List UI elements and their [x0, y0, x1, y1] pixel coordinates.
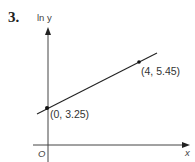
- graph: ln y x O (0, 3.25) (4, 5.45): [0, 0, 195, 162]
- point-second: [137, 60, 141, 64]
- y-axis-arrow-icon: [45, 27, 51, 35]
- origin-label: O: [38, 148, 46, 159]
- point-intercept: [45, 106, 49, 110]
- x-axis-label: x: [184, 147, 191, 158]
- point-intercept-label: (0, 3.25): [50, 108, 89, 120]
- y-axis-label: ln y: [37, 12, 52, 23]
- point-second-label: (4, 5.45): [141, 65, 180, 77]
